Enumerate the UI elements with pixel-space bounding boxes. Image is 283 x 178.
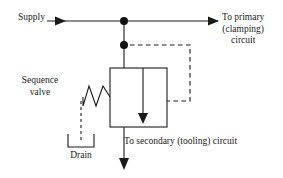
sequence-valve-diagram: Supply To primary (clamping) circuit Seq…: [0, 0, 283, 178]
junction-dot-pilot: [120, 41, 128, 49]
drain-bracket-icon: [68, 134, 94, 147]
label-primary-line1: To primary: [222, 12, 264, 24]
label-secondary-circuit: To secondary (tooling) circuit: [124, 136, 237, 148]
label-primary-line2: (clamping): [222, 24, 264, 36]
valve-flow-arrowhead-icon: [138, 113, 148, 124]
secondary-outlet-arrowhead-icon: [119, 158, 129, 170]
label-sequence-valve: Sequence valve: [12, 75, 68, 98]
primary-arrowhead-icon: [208, 17, 219, 26]
supply-arrowhead-icon: [55, 17, 66, 26]
label-primary-circuit: To primary (clamping) circuit: [222, 12, 264, 47]
pilot-line: [130, 45, 190, 101]
spring-symbol-icon: [83, 86, 110, 106]
label-supply: Supply: [18, 12, 45, 24]
label-sequence-line2: valve: [12, 87, 68, 99]
label-sequence-line1: Sequence: [12, 75, 68, 87]
valve-body: [110, 68, 167, 127]
label-drain: Drain: [62, 150, 100, 162]
label-primary-line3: circuit: [222, 35, 264, 47]
junction-dot-supply: [120, 17, 128, 25]
